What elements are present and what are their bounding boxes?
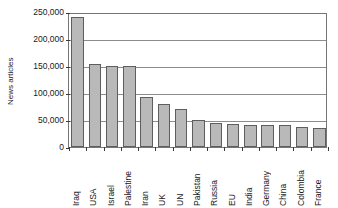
x-tick-mark xyxy=(207,147,208,151)
x-tick-mark xyxy=(328,147,329,151)
bar xyxy=(279,125,291,147)
x-axis-category-labels: IraqUSAIsraelPalestineIranUKUNPakistanRu… xyxy=(68,152,327,208)
y-axis-tick-labels: 250,000200,000150,000100,00050,0000 xyxy=(12,0,64,208)
x-axis-label: Palestine xyxy=(124,152,133,206)
y-tick-label: 100,000 xyxy=(12,89,64,98)
x-axis-label: Iraq xyxy=(72,152,81,206)
y-tick-label: 200,000 xyxy=(12,35,64,44)
bar xyxy=(175,109,187,147)
x-tick-mark xyxy=(69,147,70,151)
x-tick-mark xyxy=(138,147,139,151)
x-axis-label: Russia xyxy=(210,152,219,206)
bar xyxy=(106,66,118,147)
x-axis-label: USA xyxy=(89,152,98,206)
bar xyxy=(313,128,325,147)
bar xyxy=(158,104,170,147)
x-tick-mark xyxy=(190,147,191,151)
x-axis-label: EU xyxy=(228,152,237,206)
x-tick-mark xyxy=(173,147,174,151)
x-axis-label: Israel xyxy=(107,152,116,206)
x-tick-mark xyxy=(224,147,225,151)
x-tick-mark xyxy=(259,147,260,151)
x-tick-mark xyxy=(293,147,294,151)
x-axis-label: Colombia xyxy=(297,152,306,206)
bar xyxy=(192,120,204,147)
bar xyxy=(123,66,135,147)
x-axis-label: France xyxy=(314,152,323,206)
y-tick-label: 50,000 xyxy=(12,116,64,125)
x-axis-label: UN xyxy=(176,152,185,206)
bar-chart: News articles 250,000200,000150,000100,0… xyxy=(0,0,338,208)
bar xyxy=(227,124,239,147)
x-tick-mark xyxy=(276,147,277,151)
x-axis-label: China xyxy=(279,152,288,206)
plot-area xyxy=(68,13,327,148)
bar xyxy=(89,64,101,147)
x-axis-label: Germany xyxy=(262,152,271,206)
x-axis-label: Iran xyxy=(141,152,150,206)
x-tick-mark xyxy=(155,147,156,151)
x-tick-mark xyxy=(86,147,87,151)
bar xyxy=(244,125,256,147)
y-tick-label: 0 xyxy=(12,143,64,152)
x-tick-mark xyxy=(242,147,243,151)
x-axis-label: India xyxy=(245,152,254,206)
x-tick-mark xyxy=(311,147,312,151)
bar-series xyxy=(69,13,326,147)
bar xyxy=(71,17,83,147)
y-tick-label: 250,000 xyxy=(12,8,64,17)
bar xyxy=(210,123,222,147)
y-tick-label: 150,000 xyxy=(12,62,64,71)
x-tick-mark xyxy=(104,147,105,151)
bar xyxy=(296,127,308,147)
x-axis-label: UK xyxy=(158,152,167,206)
x-tick-mark xyxy=(121,147,122,151)
bar xyxy=(261,125,273,147)
x-axis-label: Pakistan xyxy=(193,152,202,206)
bar xyxy=(140,97,152,147)
